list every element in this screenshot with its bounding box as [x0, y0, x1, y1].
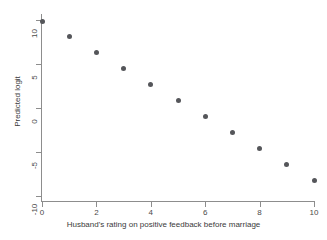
- x-tick-label: 8: [248, 208, 272, 217]
- data-point: [230, 130, 235, 135]
- y-tick-label: 5: [30, 64, 39, 90]
- x-tick-mark: [96, 202, 97, 207]
- scatter-chart: 1050-5-10 0246810 Predicted logit Husban…: [0, 0, 327, 240]
- x-tick-mark: [314, 202, 315, 207]
- x-tick-label: 6: [193, 208, 217, 217]
- x-tick-mark: [42, 202, 43, 207]
- x-axis-title: Husband's rating on positive feedback be…: [0, 220, 327, 229]
- plot-area: [42, 12, 314, 202]
- data-point: [67, 34, 72, 39]
- x-tick-label: 0: [30, 208, 54, 217]
- data-point: [121, 66, 126, 71]
- data-point: [312, 178, 317, 183]
- y-tick-label: -5: [30, 152, 39, 178]
- x-tick-label: 4: [139, 208, 163, 217]
- y-tick-label: 10: [30, 20, 39, 46]
- y-axis-title: Predicted logit: [11, 0, 23, 202]
- data-point: [94, 50, 99, 55]
- x-tick-mark: [151, 202, 152, 207]
- y-tick-label: 0: [30, 108, 39, 134]
- x-tick-label: 2: [84, 208, 108, 217]
- y-axis-title-text: Predicted logit: [13, 76, 22, 127]
- x-tick-mark: [205, 202, 206, 207]
- x-tick-label: 10: [302, 208, 326, 217]
- x-tick-mark: [260, 202, 261, 207]
- data-point: [40, 19, 45, 24]
